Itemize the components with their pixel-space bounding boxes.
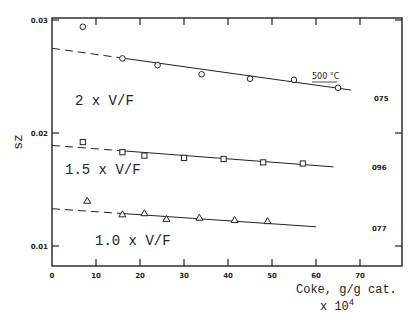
circle-marker [335,85,341,91]
chart-labels: 500 °C sz Coke, g/g cat. x 104 [11,72,397,314]
series-label: 1.0 x V/F [95,233,171,249]
circle-marker [120,56,126,62]
x-tick-label: 40 [223,272,233,280]
x-tick-label: 70 [355,272,365,280]
triangle-marker [84,197,91,203]
series-id: 075 [374,95,389,103]
square-marker [181,155,186,160]
triangle-marker [141,210,148,216]
square-marker [261,160,266,165]
x-tick-label: 30 [179,272,189,280]
triangle-marker [196,214,203,220]
x-tick-label: 0 [50,272,55,280]
square-marker [221,156,226,161]
series-id: 077 [372,225,387,233]
circle-marker [80,24,86,30]
x-tick-label: 10 [91,272,101,280]
x-tick-label: 60 [311,272,321,280]
y-tick-label: 0.02 [31,130,48,138]
data-points [80,24,341,224]
y-tick-label: 0.03 [31,17,48,25]
fit-line-extrapolated [52,209,118,214]
fit-line-extrapolated [52,145,118,150]
square-marker [120,150,125,155]
x-tick-label: 50 [267,272,277,280]
axis-ticks: 0102030405060700.010.020.03 [31,17,402,280]
y-tick-label: 0.01 [31,243,48,251]
x-axis-label: Coke, g/g cat. [296,283,397,297]
triangle-marker [231,217,238,223]
triangle-marker [264,218,271,224]
x-axis-multiplier: x 104 [320,298,354,314]
square-marker [300,161,305,166]
chart: 0102030405060700.010.020.03 2 x V/F0751.… [0,0,417,319]
circle-marker [291,77,297,83]
series-label: 2 x V/F [75,93,134,109]
circle-marker [199,71,205,77]
y-axis-label: sz [11,134,26,150]
circle-marker [247,76,253,82]
square-marker [142,153,147,158]
series-label: 1.5 x V/F [65,162,141,178]
x-tick-label: 20 [135,272,145,280]
fit-line-extrapolated [52,48,118,57]
circle-marker [155,62,161,68]
annotation-temperature: 500 °C [312,72,340,81]
square-marker [80,139,85,144]
series-id: 096 [372,164,387,172]
